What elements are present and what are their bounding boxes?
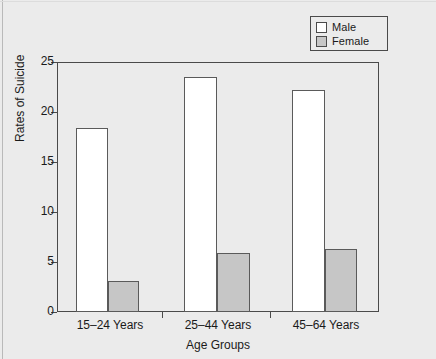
- legend-label-female: Female: [332, 36, 369, 47]
- xtick-label-45-64: 45–64 Years: [272, 318, 380, 332]
- x-axis-title: Age Groups: [0, 338, 436, 352]
- bar-male-15-24: [76, 128, 108, 312]
- bar-female-45-64: [325, 249, 357, 312]
- legend-label-male: Male: [332, 22, 356, 33]
- page-edge-top: [0, 1, 436, 2]
- male-swatch-icon: [316, 22, 327, 33]
- ytick-label-15: 15: [41, 155, 54, 168]
- xtick-label-15-24: 15–24 Years: [56, 318, 164, 332]
- female-swatch-icon: [316, 36, 327, 47]
- page-edge-left: [2, 0, 3, 359]
- ytick-label-0: 0: [47, 305, 54, 318]
- bar-female-25-44: [217, 253, 250, 312]
- y-axis-title: Rates of Suicide: [13, 55, 27, 142]
- plot-area: 0 5 10 15 20 25: [57, 62, 379, 312]
- chart-legend: Male Female: [310, 16, 388, 51]
- legend-item-male: Male: [316, 20, 356, 34]
- bar-female-15-24: [108, 281, 139, 312]
- ytick-label-5: 5: [47, 255, 54, 268]
- legend-item-female: Female: [316, 34, 369, 48]
- bar-male-25-44: [184, 77, 217, 312]
- chart-screenshot: Male Female 0 5 10 15 20: [0, 0, 436, 359]
- xtick-label-25-44: 25–44 Years: [164, 318, 272, 332]
- bar-male-45-64: [292, 90, 325, 312]
- ytick-label-10: 10: [41, 205, 54, 218]
- ytick-label-25: 25: [41, 55, 54, 68]
- ytick-label-20: 20: [41, 105, 54, 118]
